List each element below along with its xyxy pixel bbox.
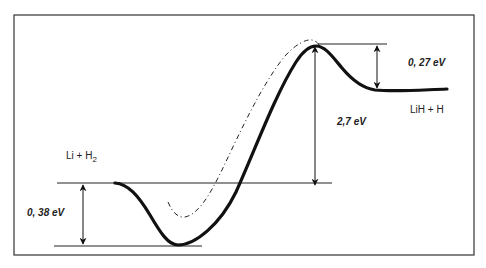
reactants-text: Li + H — [66, 150, 92, 161]
energy-diagram — [0, 0, 486, 268]
well-depth-label: 0, 38 eV — [27, 207, 64, 218]
reactants-subscript: 2 — [92, 155, 96, 164]
reverse-barrier-label: 0, 27 eV — [408, 57, 445, 68]
products-label: LiH + H — [410, 104, 444, 115]
barrier-height-label: 2,7 eV — [337, 116, 366, 127]
reactants-label: Li + H2 — [66, 150, 97, 164]
